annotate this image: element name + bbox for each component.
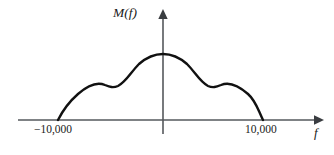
spectrum-figure: M(f) f −10,000 10,000 <box>0 0 334 155</box>
x-axis-label: f <box>314 126 318 139</box>
y-axis-label: M(f) <box>113 6 137 20</box>
arrow-right-icon <box>314 115 324 125</box>
spectrum-curve <box>58 54 263 120</box>
x-tick-label-positive-10000: 10,000 <box>245 124 277 136</box>
arrow-up-icon <box>158 9 167 19</box>
x-tick-label-negative-10000: −10,000 <box>34 124 72 136</box>
